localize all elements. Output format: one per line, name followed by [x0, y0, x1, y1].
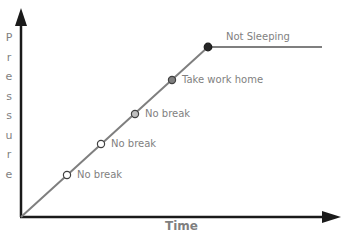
pressure-line	[21, 47, 322, 217]
y-axis-label: P r e s s u r e	[4, 28, 14, 184]
y-letter: e	[4, 165, 14, 185]
y-letter: r	[4, 48, 14, 68]
y-letter: e	[4, 67, 14, 87]
y-letter: u	[4, 126, 14, 146]
point-label-4: Take work home	[182, 74, 263, 85]
data-point-4	[168, 76, 175, 83]
point-label-5: Not Sleeping	[226, 31, 290, 42]
y-letter: s	[4, 87, 14, 107]
point-label-3: No break	[145, 108, 190, 119]
point-label-2: No break	[111, 138, 156, 149]
y-letter: P	[4, 28, 14, 48]
data-point-2	[97, 140, 104, 147]
x-axis-arrow-icon	[322, 211, 341, 223]
y-letter: s	[4, 106, 14, 126]
x-axis-label: Time	[165, 219, 198, 233]
point-label-1: No break	[77, 169, 122, 180]
y-axis-arrow-icon	[15, 8, 27, 26]
y-letter: r	[4, 145, 14, 165]
data-point-1	[63, 171, 70, 178]
data-point-3	[131, 110, 138, 117]
data-point-5	[204, 43, 212, 51]
